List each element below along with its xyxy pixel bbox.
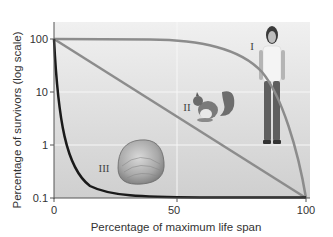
y-tick-1: 1: [42, 139, 48, 151]
curve-label-i: I: [250, 40, 254, 52]
y-axis-title: Percentage of survivors (log scale): [11, 31, 23, 208]
survivorship-chart: I II III 100 10 1 0.1 0 50 100 Percentag…: [0, 0, 333, 237]
y-tick-10: 10: [36, 86, 48, 98]
curve-label-ii: II: [183, 101, 191, 113]
y-tick-100: 100: [30, 33, 48, 45]
clam-shell-illustration: [118, 140, 164, 184]
x-tick-100: 100: [297, 204, 315, 216]
x-axis-title: Percentage of maximum life span: [91, 221, 262, 233]
x-tick-50: 50: [168, 204, 180, 216]
curve-label-iii: III: [99, 162, 110, 174]
x-tick-0: 0: [51, 204, 57, 216]
y-tick-0-1: 0.1: [33, 192, 48, 204]
